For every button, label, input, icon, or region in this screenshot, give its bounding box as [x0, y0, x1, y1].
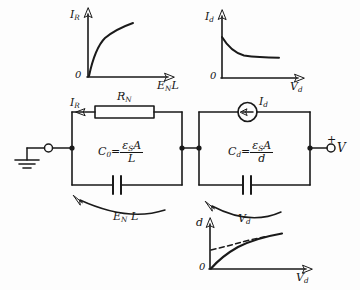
plot-bottom-xlabel: Vd: [296, 272, 309, 284]
resistor-label-rn: RN: [117, 91, 132, 103]
figure-canvas: IR 0 ENL Id 0 Vd d 0 Vd IR RN C0=εSAL EN…: [0, 0, 360, 290]
axis-y-arrow-top-right: [218, 10, 226, 20]
ground-terminal-node: [45, 144, 53, 152]
left-loop-junction-dot: [69, 145, 74, 150]
plot-bottom: [206, 218, 312, 273]
plot-top-left-ylabel: IR: [70, 9, 80, 21]
terminal-label-v: V: [337, 142, 346, 154]
plot-top-left-origin: 0: [75, 70, 81, 80]
current-label-ir: IR: [70, 97, 80, 109]
plot-top-right-ylabel: Id: [205, 11, 214, 23]
schematic-svg: [0, 0, 360, 290]
curve-top-right: [222, 37, 279, 58]
axis-y-arrow-top-left: [84, 8, 92, 18]
feedback-label-vd: Vd: [238, 213, 251, 225]
capacitor-equation-cd: Cd=εSAd: [228, 140, 273, 165]
axis-y-arrow-bottom: [206, 218, 214, 228]
plot-bottom-origin: 0: [199, 262, 205, 272]
feedback-label-enl: EN L: [113, 211, 138, 223]
curve-top-left: [89, 23, 133, 76]
capacitor-equation-c0: C0=εSAL: [98, 140, 143, 165]
right-loop-junction-dot: [196, 145, 201, 150]
plot-top-left: [84, 8, 174, 81]
plot-top-left-xlabel: ENL: [157, 80, 179, 92]
current-source-label-id: Id: [259, 96, 268, 108]
curve-bottom-solid: [211, 234, 282, 269]
plot-bottom-ylabel: d: [196, 217, 203, 228]
plot-top-right-xlabel: Vd: [290, 81, 303, 93]
plot-top-right-origin: 0: [210, 71, 216, 81]
resistor-box: [95, 106, 154, 118]
terminal-polarity-sign: +: [327, 134, 336, 145]
plot-top-right: [218, 10, 304, 82]
